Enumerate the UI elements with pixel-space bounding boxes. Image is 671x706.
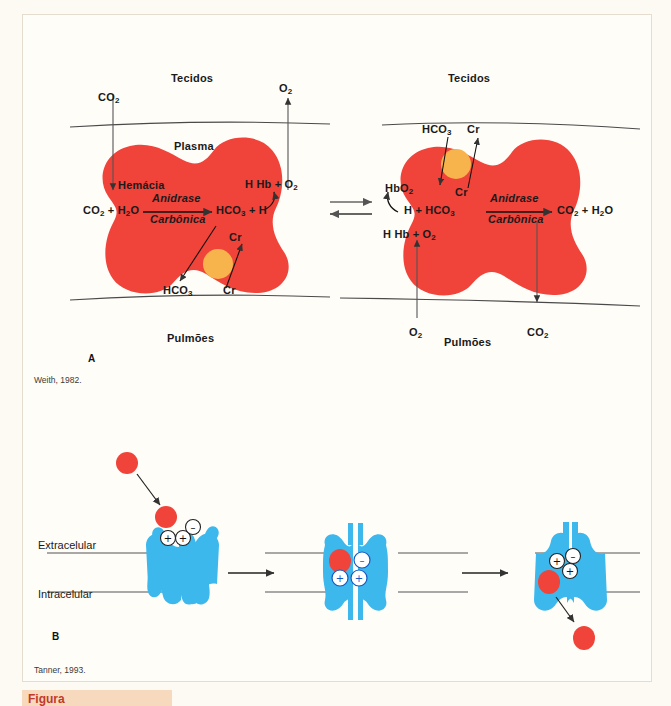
figure-caption-text: Figura <box>28 692 65 706</box>
label-hhb-o2-right: H Hb + O2 <box>383 228 436 242</box>
label-anidrase-left: Anidrase <box>152 192 201 204</box>
label-extracelular: Extracelular <box>38 539 96 551</box>
svg-text:+: + <box>566 566 574 577</box>
label-hbo2: HbO2 <box>385 182 413 196</box>
svg-text:+: + <box>355 573 363 584</box>
label-reaction-right-rhs: CO2 + H2O <box>557 204 613 218</box>
svg-text:+: + <box>164 533 172 544</box>
label-hco3-in-right: HCO3 <box>422 123 452 137</box>
panel-letter-a: A <box>88 353 95 364</box>
label-pulmoes-right: Pulmões <box>444 336 491 348</box>
membrane-line-top-right <box>382 123 640 129</box>
svg-text:–: – <box>571 551 576 562</box>
label-tecidos-right: Tecidos <box>448 72 490 84</box>
ion-at-binding-site <box>155 506 177 528</box>
label-plasma: Plasma <box>174 140 214 152</box>
label-o2-lungs: O2 <box>409 326 422 340</box>
label-reaction-left-lhs: CO2 + H2O <box>83 204 139 218</box>
svg-text:–: – <box>191 522 196 533</box>
label-hhb-o2-left: H Hb + O2 <box>245 178 298 192</box>
anion-exchanger-left <box>203 249 233 279</box>
figure-caption-bar: Figura <box>22 690 172 706</box>
source-weith: Weith, 1982. <box>34 375 82 385</box>
label-reaction-left-rhs: HCO3 + H <box>216 204 267 218</box>
label-cr-out-left: Cr <box>223 284 236 296</box>
membrane-line-bottom-left <box>70 295 330 300</box>
figure-root: + + – – + + <box>0 0 671 706</box>
panel-letter-b: B <box>52 631 59 642</box>
label-carbonica-left: Carbônica <box>150 213 206 225</box>
svg-text:–: – <box>360 555 365 566</box>
svg-text:+: + <box>336 573 344 584</box>
membrane-line-top-left <box>70 122 330 127</box>
label-anidrase-right: Anidrase <box>490 192 539 204</box>
ion-release-arrow <box>556 597 574 622</box>
diagram-canvas: + + – – + + <box>0 0 671 706</box>
label-cr-in-right: Cr <box>467 123 480 135</box>
label-tecidos-left: Tecidos <box>171 72 213 84</box>
ion-entry-arrow <box>137 474 160 505</box>
ion-free-intracellular <box>573 626 595 650</box>
svg-text:+: + <box>553 556 561 567</box>
label-pulmoes-left: Pulmões <box>167 332 214 344</box>
label-cr-inner-left: Cr <box>229 231 242 243</box>
label-cr-inner-right: Cr <box>455 186 468 198</box>
svg-text:+: + <box>179 533 187 544</box>
label-o2-out-left: O2 <box>279 82 292 96</box>
band3-transporter-occluded: – + + <box>323 523 388 620</box>
ion-free-extracellular <box>116 452 138 474</box>
label-reaction-right-lhs: H + HCO3 <box>404 204 455 218</box>
label-intracelular: Intracelular <box>38 588 92 600</box>
source-tanner: Tanner, 1993. <box>34 665 86 675</box>
label-carbonica-right: Carbônica <box>488 213 544 225</box>
label-hemacia: Hemácia <box>118 179 165 191</box>
membrane-line-bottom-right <box>340 298 640 306</box>
label-hco3-out-left: HCO3 <box>163 284 193 298</box>
label-co2-in-left: CO2 <box>98 91 120 105</box>
ion-releasing <box>538 570 560 594</box>
label-co2-lungs: CO2 <box>527 326 549 340</box>
